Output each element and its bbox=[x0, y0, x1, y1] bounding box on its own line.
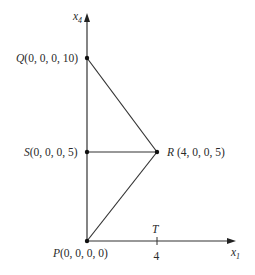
point-label-s: S(0, 0, 0, 5) bbox=[24, 146, 78, 159]
edge-q-r bbox=[87, 58, 157, 152]
edge-p-r bbox=[87, 152, 157, 241]
x4-axis-label: x4 bbox=[72, 10, 82, 25]
x1-arrow-icon bbox=[227, 238, 236, 244]
simplex-diagram: x4 x1 4 T Q(0, 0, 0, 10) S(0, 0, 0, 5) R… bbox=[0, 0, 255, 275]
point-p bbox=[85, 239, 89, 243]
point-s bbox=[85, 150, 89, 154]
point-r bbox=[155, 150, 159, 154]
point-label-r: R (4, 0, 0, 5) bbox=[166, 146, 225, 159]
point-label-p: P(0, 0, 0, 0) bbox=[52, 247, 108, 260]
point-label-q: Q(0, 0, 0, 10) bbox=[16, 52, 78, 65]
point-q bbox=[85, 56, 89, 60]
x1-axis-label: x1 bbox=[230, 246, 240, 261]
tick-label-4: 4 bbox=[154, 250, 160, 262]
x4-arrow-icon bbox=[84, 13, 90, 22]
point-label-t: T bbox=[152, 223, 160, 235]
